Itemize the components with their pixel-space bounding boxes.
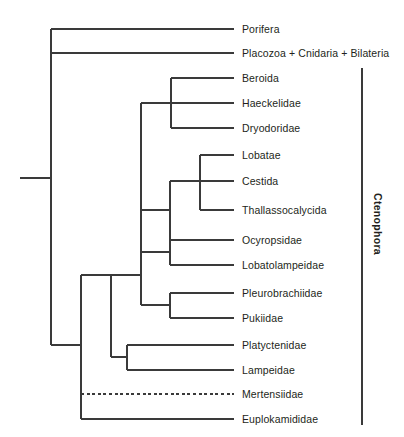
- taxon-label-pleurobrachiidae: Pleurobrachiidae: [242, 287, 322, 299]
- taxon-label-placozoa-cnidaria-bilateria: Placozoa + Cnidaria + Bilateria: [242, 47, 389, 59]
- taxon-label-haeckelidae: Haeckelidae: [242, 97, 301, 109]
- branch-layer: [20, 29, 362, 425]
- taxon-label-lobatolampeidae: Lobatolampeidae: [242, 259, 324, 271]
- taxon-label-ocyropsidae: Ocyropsidae: [242, 234, 302, 246]
- taxon-label-beroida: Beroida: [242, 72, 279, 84]
- taxon-label-pukiidae: Pukiidae: [242, 312, 283, 324]
- taxon-label-mertensiidae: Mertensiidae: [242, 388, 303, 400]
- phylogenetic-tree-figure: PoriferaPlacozoa + Cnidaria + BilateriaB…: [0, 0, 404, 437]
- taxon-label-dryodoridae: Dryodoridae: [242, 122, 300, 134]
- taxon-label-cestida: Cestida: [242, 175, 278, 187]
- taxon-label-platyctenidae: Platyctenidae: [242, 339, 306, 351]
- taxon-label-lobatae: Lobatae: [242, 149, 281, 161]
- taxon-label-thallassocalycida: Thallassocalycida: [242, 204, 327, 216]
- taxon-label-euplokamididae: Euplokamididae: [242, 413, 318, 425]
- tree-branch-diagram: [0, 0, 404, 437]
- taxon-label-porifera: Porifera: [242, 23, 280, 35]
- clade-label-ctenophora: Ctenophora: [372, 193, 384, 255]
- taxon-label-lampeidae: Lampeidae: [242, 364, 295, 376]
